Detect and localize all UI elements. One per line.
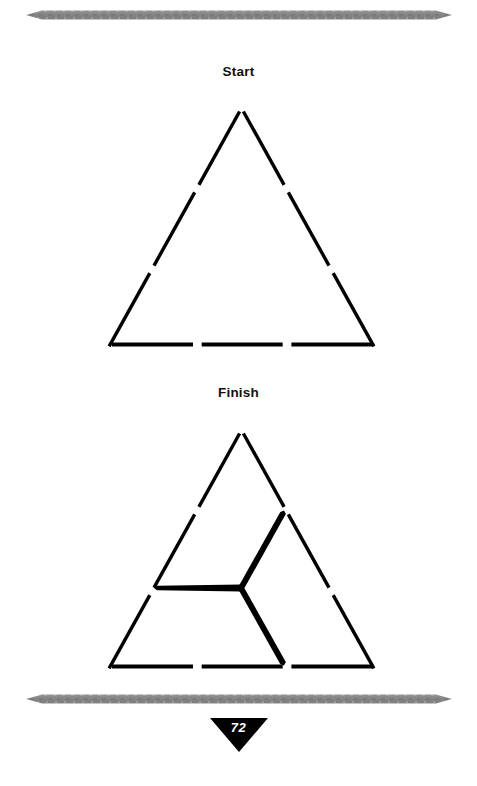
stick-right-middle (288, 514, 329, 587)
spoke-upper-right-stick (239, 511, 285, 589)
stick-left-lower (109, 595, 150, 668)
stick-left-upper (199, 434, 240, 507)
start-outline-sticks (109, 112, 374, 347)
stick-right-upper (243, 112, 284, 185)
stick-left-middle (154, 514, 195, 587)
start-section-label: Start (0, 64, 477, 79)
finish-interior-spokes (154, 511, 286, 666)
start-triangle-figure (0, 100, 477, 360)
stick-right-upper (243, 434, 284, 507)
finish-outline-sticks (109, 434, 374, 669)
page-number-text: 72 (210, 720, 268, 735)
page-number-badge: 72 (0, 718, 477, 754)
finish-section-label: Finish (0, 385, 477, 400)
stick-left-lower (109, 273, 150, 346)
stick-right-lower (333, 595, 374, 668)
spoke-center-hub (239, 585, 244, 590)
finish-triangle-figure (0, 422, 477, 682)
stick-right-lower (333, 273, 374, 346)
stick-left-upper (199, 112, 240, 185)
spoke-lower-right-stick (239, 588, 285, 666)
bottom-rule-ornament (26, 692, 452, 706)
puzzle-page: Start Finish (0, 0, 477, 786)
top-rule-ornament (26, 8, 452, 22)
stick-right-middle (288, 192, 329, 265)
spoke-left-stick (154, 585, 245, 592)
stick-left-middle (154, 192, 195, 265)
